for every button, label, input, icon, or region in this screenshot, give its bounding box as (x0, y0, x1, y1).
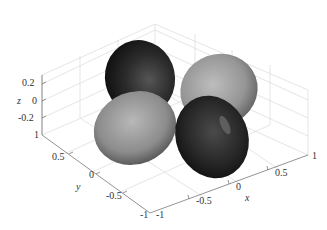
x-axis-label: x (245, 193, 249, 203)
x-tick-neg1: -1 (156, 210, 164, 220)
axes (42, 75, 308, 213)
y-tick-0.5: 0.5 (52, 152, 65, 162)
surface-plot-3d (0, 0, 327, 230)
x-tick-1: 1 (312, 151, 317, 161)
z-tick-0.2: 0.2 (22, 78, 35, 88)
y-tick-neg0.5: -0.5 (106, 191, 122, 201)
y-tick-1: 1 (34, 130, 39, 140)
x-tick-0: 0 (236, 182, 241, 192)
y-axis-label: y (76, 182, 80, 192)
z-tick-neg0.2: -0.2 (18, 113, 34, 123)
z-tick-0: 0 (32, 96, 37, 106)
y-tick-0: 0 (89, 170, 94, 180)
y-tick-neg1: -1 (140, 210, 148, 220)
grid-lines (42, 24, 308, 198)
x-tick-neg0.5: -0.5 (196, 196, 212, 206)
z-axis-label: z (17, 96, 21, 106)
x-tick-0.5: 0.5 (275, 168, 288, 178)
